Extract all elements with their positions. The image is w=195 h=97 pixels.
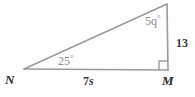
vertex-label-m: M (162, 74, 174, 87)
side-length-label-bottom: 7s (83, 75, 94, 87)
angle-n-value: 25 (58, 54, 70, 68)
side-bottom-variable: s (89, 74, 94, 88)
geometry-figure: N M 7s 13 25° 5q° (0, 0, 195, 97)
degree-symbol-icon: ° (70, 53, 74, 63)
triangle-side-bottom (24, 69, 168, 70)
angle-measure-label-apex: 5q° (145, 15, 161, 27)
angle-measure-label-n: 25° (58, 55, 74, 67)
degree-symbol-icon: ° (157, 13, 161, 23)
right-angle-marker-icon (159, 61, 168, 70)
triangle-side-right (167, 4, 168, 70)
side-length-label-right: 13 (176, 37, 188, 49)
vertex-label-n: N (5, 73, 14, 86)
